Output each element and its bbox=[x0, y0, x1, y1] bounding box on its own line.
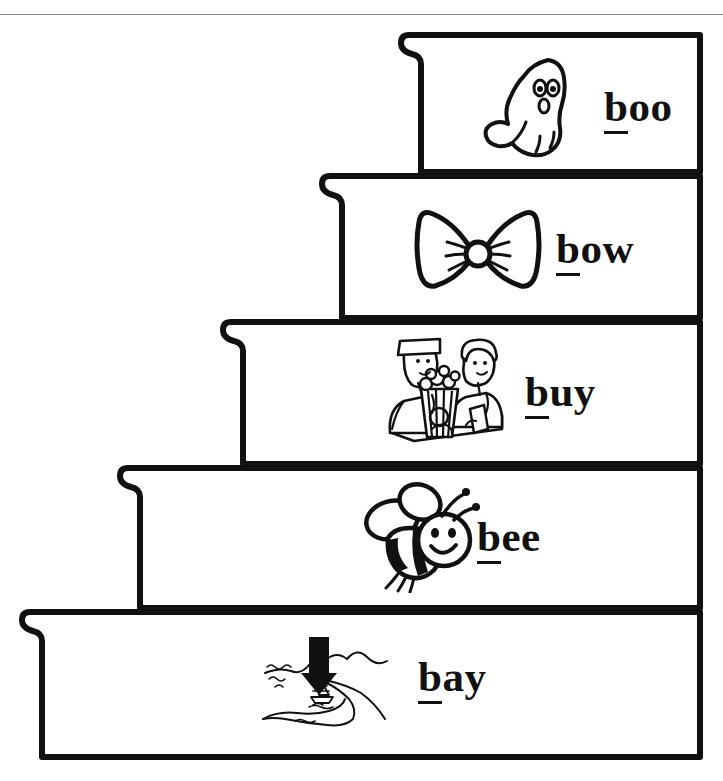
bee-icon bbox=[358, 478, 483, 593]
worksheet-page: boo bow buy bee bay bbox=[0, 0, 723, 781]
popcorn-vendor-icon bbox=[374, 337, 509, 447]
word-label-buy: buy bbox=[525, 370, 596, 413]
word-rest: ee bbox=[501, 513, 540, 560]
bay-map-icon bbox=[253, 633, 408, 733]
word-first-letter: b bbox=[525, 368, 549, 419]
word-label-bow: bow bbox=[556, 227, 634, 270]
word-rest: ow bbox=[580, 225, 634, 272]
word-label-bay: bay bbox=[418, 655, 486, 698]
word-label-bee: bee bbox=[477, 515, 541, 558]
word-first-letter: b bbox=[604, 83, 628, 134]
word-first-letter: b bbox=[477, 513, 501, 564]
ghost-icon bbox=[478, 48, 598, 168]
bowtie-icon bbox=[413, 200, 543, 310]
word-first-letter: b bbox=[556, 225, 580, 276]
word-rest: ay bbox=[442, 653, 486, 700]
word-label-boo: boo bbox=[604, 85, 672, 128]
word-rest: oo bbox=[628, 83, 672, 130]
word-first-letter: b bbox=[418, 653, 442, 704]
word-rest: uy bbox=[549, 368, 595, 415]
